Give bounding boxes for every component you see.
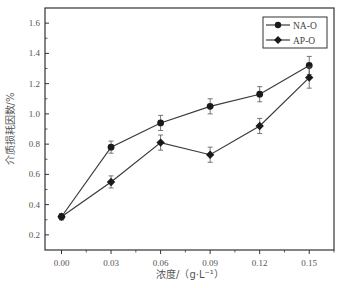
diamond-marker <box>57 213 65 221</box>
series-ap-o <box>57 67 313 221</box>
y-tick-label: 0.6 <box>29 169 41 179</box>
x-tick-label: 0.09 <box>202 258 218 268</box>
y-tick-label: 1.4 <box>29 48 41 58</box>
x-tick-label: 0.12 <box>252 258 268 268</box>
x-tick-label: 0.15 <box>301 258 317 268</box>
circle-marker <box>157 120 164 127</box>
y-tick-label: 1.0 <box>29 109 41 119</box>
y-tick-label: 0.8 <box>29 139 41 149</box>
y-axis-label: 介质损耗因数/% <box>4 93 16 166</box>
x-tick-label: 0.03 <box>103 258 119 268</box>
y-tick-label: 1.6 <box>29 18 41 28</box>
circle-marker <box>108 144 115 151</box>
y-tick-label: 1.2 <box>29 79 40 89</box>
diamond-marker <box>206 151 214 159</box>
legend-label: AP-O <box>293 36 315 46</box>
y-axis: 0.20.40.60.81.01.21.41.6 <box>29 18 49 240</box>
x-tick-label: 0.00 <box>54 258 70 268</box>
circle-marker <box>275 22 281 28</box>
series-layer <box>57 56 313 221</box>
x-axis-label: 浓度/（g·L⁻¹） <box>156 268 224 280</box>
circle-marker <box>207 103 214 110</box>
legend-label: NA-O <box>293 21 317 31</box>
series-na-o <box>58 56 313 220</box>
x-tick-label: 0.06 <box>153 258 169 268</box>
line-chart: 0.20.40.60.81.01.21.41.6 0.000.030.060.0… <box>0 0 345 288</box>
legend: NA-OAP-O <box>263 17 327 48</box>
series-line <box>62 65 310 216</box>
y-tick-label: 0.2 <box>29 230 40 240</box>
circle-marker <box>256 91 263 98</box>
y-tick-label: 0.4 <box>29 200 41 210</box>
x-axis: 0.000.030.060.090.120.15 <box>54 250 334 268</box>
series-line <box>62 78 310 217</box>
